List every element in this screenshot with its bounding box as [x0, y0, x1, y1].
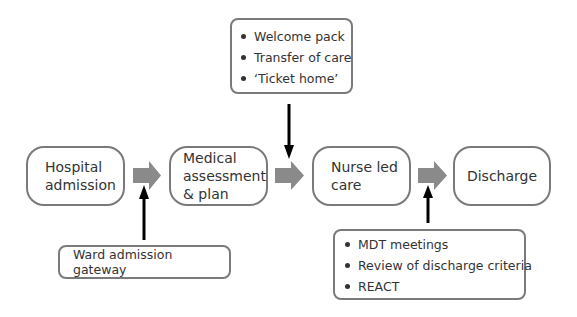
step-label: Medical assessment & plan — [171, 149, 266, 203]
step-label-line: Discharge — [467, 167, 537, 185]
bullet-icon — [345, 284, 350, 289]
bullet-icon — [345, 263, 350, 268]
discharge-support-box: MDT meetings Review of discharge criteri… — [333, 229, 526, 300]
list-item-text: MDT meetings — [358, 234, 448, 255]
list-item: Transfer of care — [241, 47, 351, 68]
list-item: Welcome pack — [241, 26, 351, 47]
transfer-box: Welcome pack Transfer of care ‘Ticket ho… — [230, 18, 353, 94]
list-item: Review of discharge criteria — [345, 255, 524, 276]
list-item-text: Review of discharge criteria — [358, 255, 532, 276]
list-item: MDT meetings — [345, 234, 524, 255]
step-medical-assessment: Medical assessment & plan — [169, 146, 268, 206]
transfer-arrow — [284, 104, 294, 159]
bullet-icon — [345, 242, 350, 247]
transfer-list: Welcome pack Transfer of care ‘Ticket ho… — [241, 26, 351, 89]
list-item-text: REACT — [358, 276, 399, 297]
list-item-text: Welcome pack — [254, 26, 345, 47]
bullet-icon — [241, 34, 246, 39]
step-label: Discharge — [467, 167, 537, 185]
step-nurse-led-care: Nurse led care — [312, 146, 411, 206]
flow-arrow-2 — [275, 161, 304, 190]
step-label-line: assessment — [183, 167, 266, 185]
step-label: Nurse led care — [314, 158, 398, 194]
ward-gateway-arrow — [139, 185, 149, 240]
step-hospital-admission: Hospital admission — [26, 146, 125, 206]
bullet-icon — [241, 76, 246, 81]
step-label-line: & plan — [183, 185, 266, 203]
list-item-text: Transfer of care — [254, 47, 351, 68]
discharge-support-arrow — [423, 185, 433, 223]
step-label-line: care — [331, 176, 398, 194]
bullet-icon — [241, 55, 246, 60]
step-label-line: Hospital — [45, 158, 116, 176]
step-label-line: Medical — [183, 149, 266, 167]
step-discharge: Discharge — [453, 146, 551, 206]
step-label-line: Nurse led — [331, 158, 398, 176]
list-item: ‘Ticket home’ — [241, 68, 351, 89]
step-label: Hospital admission — [28, 158, 116, 194]
flow-arrow-3 — [418, 161, 447, 190]
step-label-line: admission — [45, 176, 116, 194]
list-item-text: ‘Ticket home’ — [254, 68, 338, 89]
ward-gateway-label: Ward admission gateway — [73, 247, 229, 277]
flow-arrow-1 — [133, 161, 161, 190]
list-item: REACT — [345, 276, 524, 297]
ward-gateway-box: Ward admission gateway — [58, 245, 231, 279]
discharge-support-list: MDT meetings Review of discharge criteri… — [345, 234, 524, 297]
